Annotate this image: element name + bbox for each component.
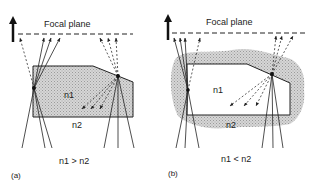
panel-a: Focal plane n1 n2: [9, 16, 134, 180]
medium-n2-label: n2: [226, 120, 236, 130]
panel-b: Focal plane n1 n2: [164, 14, 305, 178]
focal-plane-label: Focal plane: [44, 19, 91, 29]
focal-plane-label: Focal plane: [206, 17, 253, 27]
medium-n1-label: n1: [64, 90, 74, 100]
relation-label: n1 < n2: [221, 154, 251, 164]
medium-n1-label: n1: [213, 85, 223, 95]
focus-point: [32, 86, 36, 90]
diagram: Focal plane n1 n2: [0, 0, 322, 193]
up-arrow-icon: [164, 14, 172, 40]
panel-label: (a): [11, 171, 21, 180]
up-arrow-icon: [9, 16, 17, 42]
medium-n2-label: n2: [72, 120, 82, 130]
relation-label: n1 > n2: [59, 156, 89, 166]
panel-label: (b): [168, 169, 178, 178]
